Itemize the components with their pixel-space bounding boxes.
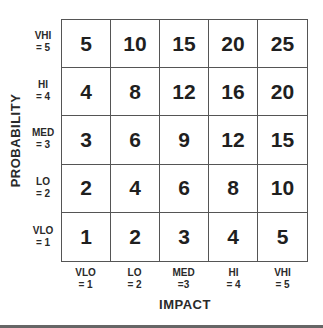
y-label-lo: LO= 2 — [26, 176, 60, 200]
matrix-cell: 6 — [160, 165, 209, 213]
matrix-cell: 2 — [111, 213, 160, 261]
matrix-cell: 12 — [160, 68, 209, 116]
x-label-value: = 4 — [209, 279, 258, 291]
matrix-cell: 15 — [258, 116, 307, 164]
x-label-name: VLO — [61, 267, 110, 279]
probability-axis-title: PROBABILITY — [8, 91, 23, 191]
matrix-cell: 20 — [258, 68, 307, 116]
matrix-cell: 8 — [111, 68, 160, 116]
x-label-value: = 5 — [258, 279, 307, 291]
x-label-name: VHI — [258, 267, 307, 279]
y-label-med: MED= 3 — [26, 127, 60, 151]
y-label-value: = 2 — [26, 188, 60, 200]
matrix-cell: 6 — [111, 116, 160, 164]
matrix-cell: 9 — [160, 116, 209, 164]
matrix-cell: 1 — [62, 213, 111, 261]
y-label-value: = 1 — [26, 237, 60, 249]
x-label-vhi: VHI= 5 — [258, 267, 307, 291]
matrix-cell: 15 — [160, 20, 209, 68]
y-label-vhi: VHI= 5 — [26, 30, 60, 54]
y-label-value: = 5 — [26, 42, 60, 54]
x-label-name: HI — [209, 267, 258, 279]
x-label-hi: HI= 4 — [209, 267, 258, 291]
risk-matrix-grid: 5 10 15 20 25 4 8 12 16 20 3 6 9 12 15 2… — [61, 19, 308, 262]
x-label-name: MED — [159, 267, 208, 279]
y-label-vlo: VLO= 1 — [26, 225, 60, 249]
impact-axis-title: IMPACT — [0, 297, 323, 312]
matrix-cell: 16 — [209, 68, 258, 116]
y-label-value: = 3 — [26, 139, 60, 151]
x-label-name: LO — [110, 267, 159, 279]
matrix-cell: 4 — [209, 213, 258, 261]
x-label-vlo: VLO= 1 — [61, 267, 110, 291]
x-label-value: = 2 — [110, 279, 159, 291]
matrix-cell: 3 — [160, 213, 209, 261]
matrix-cell: 3 — [62, 116, 111, 164]
matrix-cell: 8 — [209, 165, 258, 213]
matrix-cell: 4 — [62, 68, 111, 116]
matrix-cell: 10 — [111, 20, 160, 68]
matrix-cell: 4 — [111, 165, 160, 213]
y-label-hi: HI= 4 — [26, 79, 60, 103]
x-label-med: MED=3 — [159, 267, 208, 291]
matrix-cell: 5 — [258, 213, 307, 261]
matrix-cell: 12 — [209, 116, 258, 164]
matrix-cell: 5 — [62, 20, 111, 68]
x-label-lo: LO= 2 — [110, 267, 159, 291]
y-label-name: HI — [26, 79, 60, 91]
matrix-cell: 10 — [258, 165, 307, 213]
y-label-name: VLO — [26, 225, 60, 237]
matrix-cell: 2 — [62, 165, 111, 213]
matrix-cell: 25 — [258, 20, 307, 68]
x-label-value: =3 — [159, 279, 208, 291]
y-label-name: VHI — [26, 30, 60, 42]
y-label-value: = 4 — [26, 91, 60, 103]
x-label-value: = 1 — [61, 279, 110, 291]
y-label-name: LO — [26, 176, 60, 188]
matrix-cell: 20 — [209, 20, 258, 68]
y-label-name: MED — [26, 127, 60, 139]
